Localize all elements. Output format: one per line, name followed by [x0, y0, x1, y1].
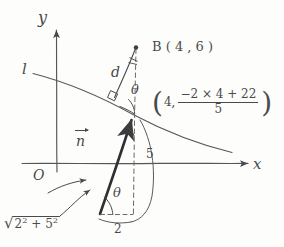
theta-upper-label: θ [131, 83, 139, 96]
x-axis-label: x [253, 157, 261, 172]
normal-vector-label: n [76, 134, 85, 148]
diagram-canvas: y x O l B ( 4 , 6 ) d θ θ n 5 2 √ 22 + 5… [0, 0, 284, 247]
normal-leader-arrow [48, 180, 86, 193]
diagram-strokes [0, 0, 284, 247]
coordinate-x-value: 4, [164, 96, 175, 108]
point-b-label: B ( 4 , 6 ) [152, 40, 213, 53]
radical-plus-sign: + [31, 217, 41, 231]
normal-vector-letter: n [76, 133, 85, 149]
distance-d-label: d [111, 65, 120, 79]
radical-term-b-base: 5 [45, 217, 53, 231]
y-axis [56, 30, 57, 172]
magnitude-radical-label: √ 22 + 52 [4, 216, 60, 232]
point-b-dot [134, 45, 138, 49]
y-axis-label: y [38, 10, 47, 26]
line-l-label: l [22, 62, 27, 77]
fraction-denominator: 5 [178, 102, 258, 117]
right-angle-marker-upper [108, 91, 118, 101]
coordinate-open-paren: ( [152, 92, 163, 113]
radical-leader-arrow [60, 190, 90, 216]
vector-arrow-overbar-icon [75, 130, 88, 131]
radical-term-b-exp: 2 [53, 215, 58, 225]
coordinate-y-fraction: −2 × 4 + 22 5 [178, 88, 258, 117]
coordinate-close-paren: ) [261, 92, 272, 113]
vertical-dashed-line [133, 49, 136, 215]
theta-lower-label: θ [113, 186, 121, 199]
radical-term-a-exp: 2 [22, 215, 27, 225]
radical-contents: 22 + 52 [13, 216, 60, 232]
foot-coordinate-label: ( 4, −2 × 4 + 22 5 ) [152, 88, 272, 117]
fraction-numerator: −2 × 4 + 22 [178, 88, 258, 102]
origin-label: O [33, 168, 44, 182]
side-length-two-label: 2 [114, 223, 122, 235]
side-length-five-label: 5 [146, 148, 154, 160]
